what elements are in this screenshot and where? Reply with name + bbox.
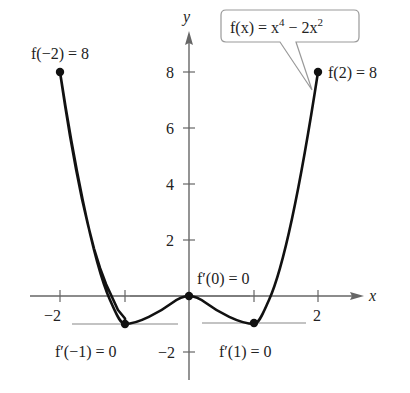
x-tick-label-2: 2: [313, 307, 321, 324]
point-f-neg2: [56, 68, 64, 76]
label-fprime-neg1: f′(−1) = 0: [55, 343, 117, 361]
y-axis-arrow-icon: [185, 31, 193, 45]
label-fprime-1: f′(1) = 0: [219, 343, 272, 361]
point-critical-1: [250, 319, 258, 327]
x-axis: [30, 290, 364, 302]
point-critical-neg1: [121, 320, 129, 328]
label-fprime-0: f′(0) = 0: [197, 270, 250, 288]
x-axis-arrow-icon: [350, 292, 364, 300]
y-tick-label-neg2: −2: [158, 344, 175, 361]
y-tick-label-2: 2: [166, 232, 174, 249]
y-axis-label: y: [181, 8, 191, 26]
y-tick-label-6: 6: [166, 120, 174, 137]
y-axis: [183, 31, 195, 380]
y-tick-label-4: 4: [166, 176, 174, 193]
x-tick-label-neg2: −2: [44, 307, 61, 324]
label-f-2: f(2) = 8: [328, 64, 377, 82]
x-axis-label: x: [368, 287, 376, 304]
callout-text: f(x) = x4 − 2x2: [230, 16, 323, 37]
point-critical-0: [185, 292, 193, 300]
y-tick-label-8: 8: [166, 64, 174, 81]
point-f-2: [314, 68, 322, 76]
label-f-neg2: f(−2) = 8: [31, 45, 89, 63]
function-graph: y x 8 6 4 2 −2 −2 2 f(−2) = 8 f(2) = 8 f…: [0, 0, 410, 393]
